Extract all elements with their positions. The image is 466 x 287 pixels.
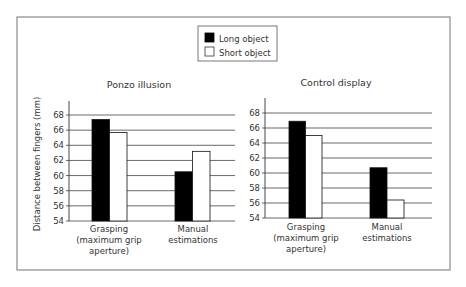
y-tick-label: 66 bbox=[249, 123, 260, 133]
bar-short-object bbox=[193, 151, 211, 221]
y-tick-label: 54 bbox=[53, 216, 64, 226]
x-category-label: (maximum grip bbox=[273, 233, 339, 243]
y-tick-label: 60 bbox=[249, 168, 260, 178]
x-category-label: Manual bbox=[372, 222, 403, 232]
chart-ponzo-illusion: Ponzo illusion Distance between fingers … bbox=[32, 79, 235, 256]
chart-title: Ponzo illusion bbox=[107, 79, 171, 90]
y-tick-label: 68 bbox=[249, 108, 260, 118]
bar-long-object bbox=[175, 172, 193, 221]
bar-short-object bbox=[306, 136, 323, 219]
legend-swatch-long bbox=[205, 33, 214, 42]
figure: Long object Short object Ponzo illusion … bbox=[0, 0, 466, 287]
legend: Long object Short object bbox=[198, 26, 277, 61]
bar-short-object bbox=[110, 132, 128, 221]
x-category-label: Grasping bbox=[287, 222, 325, 232]
y-tick-labels: 5456586062646668 bbox=[249, 108, 260, 223]
y-tick-label: 62 bbox=[249, 153, 260, 163]
x-category-labels: Grasping(maximum gripaperture)Manualesti… bbox=[76, 224, 218, 256]
x-category-label: estimations bbox=[168, 235, 218, 245]
bar-long-object bbox=[370, 168, 387, 218]
x-category-labels: Grasping(maximum gripaperture)Manualesti… bbox=[273, 222, 412, 254]
legend-label-short: Short object bbox=[219, 48, 271, 58]
chart-control-display: Control display 5456586062646668 Graspin… bbox=[249, 77, 432, 254]
y-tick-label: 64 bbox=[53, 140, 64, 150]
x-category-label: estimations bbox=[362, 233, 412, 243]
y-axis-label: Distance between fingers (mm) bbox=[32, 97, 42, 232]
y-tick-label: 54 bbox=[249, 213, 260, 223]
gridlines bbox=[262, 113, 432, 218]
x-category-label: Manual bbox=[178, 224, 209, 234]
x-category-label: aperture) bbox=[286, 244, 326, 254]
y-tick-labels: 5456586062646668 bbox=[53, 110, 64, 226]
y-tick-label: 66 bbox=[53, 125, 64, 135]
bar-long-object bbox=[289, 121, 306, 218]
bar-short-object bbox=[387, 200, 404, 218]
y-tick-label: 64 bbox=[249, 138, 260, 148]
x-category-label: Grasping bbox=[90, 224, 128, 234]
chart-title: Control display bbox=[300, 77, 371, 88]
y-tick-label: 62 bbox=[53, 155, 64, 165]
legend-label-long: Long object bbox=[219, 34, 269, 44]
y-tick-label: 58 bbox=[53, 186, 64, 196]
bars bbox=[289, 121, 404, 218]
y-tick-label: 56 bbox=[249, 198, 260, 208]
x-category-label: aperture) bbox=[89, 246, 129, 256]
y-tick-label: 60 bbox=[53, 171, 64, 181]
bar-long-object bbox=[92, 120, 110, 221]
y-tick-label: 68 bbox=[53, 110, 64, 120]
y-tick-label: 58 bbox=[249, 183, 260, 193]
x-category-label: (maximum grip bbox=[76, 235, 142, 245]
legend-swatch-short bbox=[205, 47, 214, 56]
y-tick-label: 56 bbox=[53, 201, 64, 211]
